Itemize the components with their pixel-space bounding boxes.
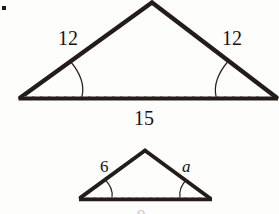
large-triangle-right-angle-arc — [215, 62, 227, 97]
figure-canvas: 12 12 15 6 a 9 — [0, 0, 279, 214]
small-triangle — [79, 151, 212, 200]
clipped-bottom-caption: 9 — [137, 207, 146, 214]
large-triangle-left-side — [21, 3, 153, 98]
small-triangle-left-angle-arc — [105, 179, 113, 198]
small-triangle-left-side — [81, 151, 146, 198]
large-triangle-base-label: 15 — [134, 108, 154, 128]
small-triangle-left-side-label: 6 — [100, 158, 109, 175]
large-triangle-left-angle-arc — [71, 62, 83, 97]
large-triangle-right-side — [152, 3, 277, 98]
large-triangle — [19, 3, 279, 99]
bullet-marker — [2, 6, 6, 10]
large-triangle-right-side-label: 12 — [222, 28, 242, 48]
small-triangle-right-side — [145, 151, 210, 199]
small-triangle-right-side-label: a — [182, 158, 191, 175]
large-triangle-left-side-label: 12 — [58, 28, 78, 48]
